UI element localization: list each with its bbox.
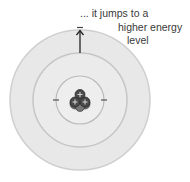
caption-line-2: higher energy xyxy=(118,21,182,34)
caption-line-1: ... it jumps to a xyxy=(80,7,148,20)
caption-line-3: level xyxy=(127,34,149,47)
inner-shell xyxy=(56,76,104,124)
